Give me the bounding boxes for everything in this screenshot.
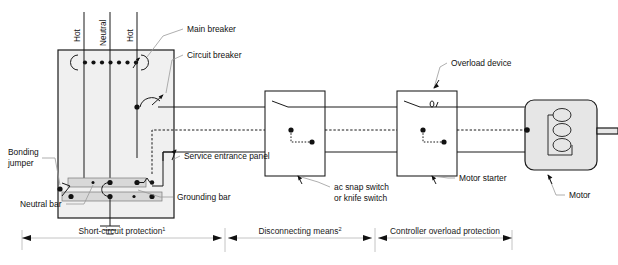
zone-arrow-left-3 [378,235,387,241]
callout-ac-snap-switch-line2: or knife switch [334,193,387,203]
bus-dot-5 [117,60,121,64]
motor-shaft [597,128,618,134]
zone-label-short-circuit-text: Short-circuit protection [79,226,163,236]
callout-circuit-breaker: Circuit breaker [187,50,242,60]
circuit-breaker-node [134,104,139,109]
overload-element-symbol [429,101,438,107]
grounding-bar-terminal-2 [132,195,135,198]
zone-label-disconnecting-text: Disconnecting means [258,226,338,236]
leader-bonding-jumper [42,158,60,185]
callout-bonding-jumper-line1: Bonding [8,147,39,157]
motor-starter-ground-bond [423,130,443,142]
zone-arrow-right-1 [213,235,222,241]
zone-arrow-right-2 [363,235,372,241]
conductor-label-neutral: Neutral [99,19,108,46]
callout-grounding-bar: Grounding bar [177,192,231,202]
zone-arrow-right-3 [503,235,512,241]
ac-snap-switch-ground-bond [291,130,311,142]
wiring-diagram: Hot Neutral Hot [0,0,618,265]
bonding-jumper-node-left [57,186,62,191]
bus-dot-3 [100,60,104,64]
motor-starter-box [397,91,457,176]
callout-service-entrance-panel: Service entrance panel [184,151,270,161]
motor-starter-contact-blade [404,101,420,107]
motor-starter-ground-bond-node [441,139,446,144]
callout-neutral-bar: Neutral bar [20,199,62,209]
zone-arrow-left-1 [22,235,31,241]
motor-body [525,100,597,170]
zone-label-controller-text: Controller overload protection [390,226,500,236]
zone-arrow-left-2 [228,235,237,241]
bus-dot-2 [91,60,95,64]
bus-dot-1 [83,60,87,64]
conductor-label-hot-left: Hot [73,29,82,42]
callout-overload-device: Overload device [451,58,512,68]
bus-dot-4 [108,60,112,64]
callout-bonding-jumper-line2: jumper [7,158,34,168]
zone-label-controller: Controller overload protection [390,226,500,236]
zone-label-short-circuit-footnote: 1 [162,226,165,232]
zone-label-disconnecting-footnote: 2 [338,226,341,232]
ac-snap-switch-box [265,91,325,176]
callout-ac-snap-switch-line1: ac snap switch [334,182,389,192]
conductor-label-hot-right: Hot [126,29,135,42]
bus-dot-6 [125,60,129,64]
motor-ground-terminal [524,127,530,133]
callout-motor: Motor [569,190,591,200]
callout-main-breaker: Main breaker [187,24,236,34]
callout-motor-starter: Motor starter [459,173,507,183]
leader-ac-snap-switch [298,176,330,187]
wiring-diagram-canvas: Hot Neutral Hot [0,0,618,265]
ac-snap-switch-blade [272,101,288,107]
ac-snap-switch-ground-bond-node [309,139,314,144]
zone-label-disconnecting: Disconnecting means2 [258,226,341,236]
neutral-bar-terminal-1 [92,181,95,184]
zone-label-short-circuit: Short-circuit protection1 [79,226,166,236]
bonding-jumper-node-right [68,194,73,199]
